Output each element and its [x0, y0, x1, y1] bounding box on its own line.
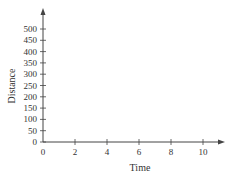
- x-tick-label: 4: [105, 147, 110, 157]
- x-tick-label: 10: [199, 147, 209, 157]
- x-tick-label: 8: [169, 147, 174, 157]
- x-tick-label: 2: [73, 147, 78, 157]
- x-axis-arrow-icon: [218, 140, 225, 145]
- axes: [41, 8, 226, 145]
- y-tick-label: 400: [24, 47, 38, 57]
- x-tick-label: 0: [41, 147, 46, 157]
- x-axis-label: Time: [130, 162, 151, 173]
- y-tick-label: 350: [24, 58, 38, 68]
- y-tick-label: 300: [24, 69, 38, 79]
- x-tick-label: 6: [137, 147, 142, 157]
- y-tick-label: 150: [24, 103, 38, 113]
- y-tick-label: 50: [28, 126, 38, 136]
- y-axis-label: Distance: [6, 68, 17, 104]
- y-axis-arrow-icon: [41, 8, 46, 15]
- y-tick-label: 250: [24, 81, 38, 91]
- y-tick-label: 200: [24, 92, 38, 102]
- y-tick-label: 500: [24, 24, 38, 34]
- distance-time-chart: 050100150200250300350400450500 0246810 T…: [0, 0, 230, 183]
- y-tick-label: 0: [33, 137, 38, 147]
- y-tick-label: 450: [24, 35, 38, 45]
- y-tick-label: 100: [24, 114, 38, 124]
